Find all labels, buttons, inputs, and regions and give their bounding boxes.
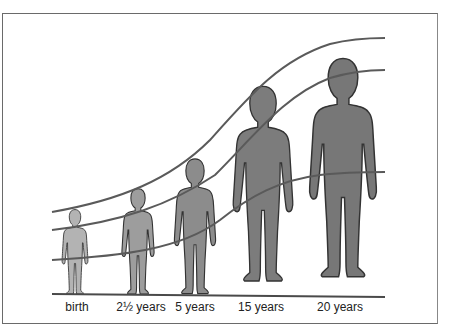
growth-diagram — [0, 0, 456, 335]
ground-line — [52, 294, 385, 297]
label-15-years: 15 years — [238, 300, 284, 314]
label-20-years: 20 years — [317, 300, 363, 314]
label-birth: birth — [65, 300, 88, 314]
figure-birth — [62, 210, 88, 295]
label-2-5-years: 2½ years — [116, 300, 165, 314]
figure-2-5-years — [122, 189, 154, 294]
label-5-years: 5 years — [175, 300, 214, 314]
figure-20-years — [310, 58, 377, 276]
